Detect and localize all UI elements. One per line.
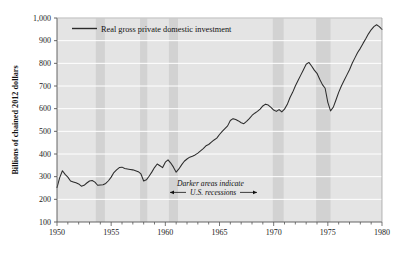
x-tick-label-1955: 1955 xyxy=(103,228,119,237)
y-tick-label-600: 600 xyxy=(39,104,51,113)
recession-note-line2: U.S. recessions xyxy=(190,188,236,197)
y-tick-label-300: 300 xyxy=(39,172,51,181)
recession-band-3 xyxy=(273,18,284,222)
legend-label-investment: Real gross private domestic investment xyxy=(101,25,232,34)
x-tick-label-1950: 1950 xyxy=(49,228,65,237)
y-tick-label-400: 400 xyxy=(39,150,51,159)
x-tick-label-1975: 1975 xyxy=(320,228,336,237)
y-axis-title: Billions of chained 2012 dollars xyxy=(11,65,20,174)
y-tick-label-100: 100 xyxy=(39,218,51,227)
y-tick-label-200: 200 xyxy=(39,195,51,204)
investment-line-chart: 1002003004005006007008009001,000 1950195… xyxy=(0,0,401,256)
x-tick-label-1970: 1970 xyxy=(266,228,282,237)
y-tick-label-500: 500 xyxy=(39,127,51,136)
y-tick-label-900: 900 xyxy=(39,36,51,45)
x-tick-label-1980: 1980 xyxy=(374,228,390,237)
recession-note-line1: Darker areas indicate xyxy=(176,179,244,188)
recession-band-0 xyxy=(96,18,105,222)
y-tick-label-1000: 1,000 xyxy=(33,14,51,23)
y-tick-label-700: 700 xyxy=(39,82,51,91)
x-tick-label-1965: 1965 xyxy=(212,228,228,237)
recession-band-1 xyxy=(140,18,147,222)
recession-band-4 xyxy=(316,18,330,222)
x-tick-label-1960: 1960 xyxy=(157,228,173,237)
chart-figure: 1002003004005006007008009001,000 1950195… xyxy=(0,0,401,256)
y-tick-label-800: 800 xyxy=(39,59,51,68)
